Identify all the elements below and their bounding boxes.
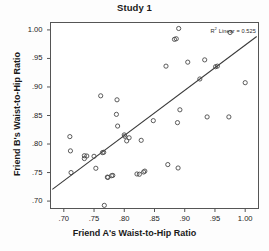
x-tick-label: .95 (200, 214, 230, 223)
y-tick-label: 1.00 (15, 25, 43, 34)
y-tick-label: .80 (15, 139, 43, 148)
y-tick-label: .75 (15, 168, 43, 177)
x-tick-label: 1.00 (230, 214, 260, 223)
y-tick-label: .90 (15, 82, 43, 91)
x-tick-label: .75 (79, 214, 109, 223)
y-tick-label: .70 (15, 196, 43, 205)
x-tick-label: .70 (49, 214, 79, 223)
r-squared-annotation: R2 Linear = 0.525 (210, 26, 256, 34)
scatter-plot-figure: Study 1 Friend B's Waist-to-Hip Ratio Fr… (0, 0, 269, 251)
y-tick-label: .95 (15, 53, 43, 62)
x-tick-label: .80 (109, 214, 139, 223)
x-axis-title: Friend A's Waist-to-Hip Ratio (0, 228, 269, 238)
x-tick-label: .90 (170, 214, 200, 223)
x-tick-label: .85 (140, 214, 170, 223)
y-tick-label: .85 (15, 111, 43, 120)
r2-text: Linear = 0.525 (217, 28, 256, 34)
